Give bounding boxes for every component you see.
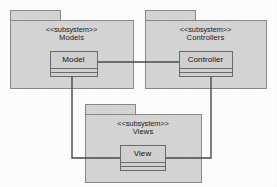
package-models-tab [11, 11, 61, 21]
package-views-tab [86, 105, 136, 115]
class-controller[interactable] [180, 52, 233, 77]
class-model[interactable] [51, 52, 98, 77]
uml-package-diagram: <<subsystem>> Models <<subsystem>> Contr… [0, 0, 277, 187]
diagram-svg-layer [0, 0, 277, 187]
class-view[interactable] [121, 146, 166, 171]
package-controllers-tab [146, 11, 196, 21]
